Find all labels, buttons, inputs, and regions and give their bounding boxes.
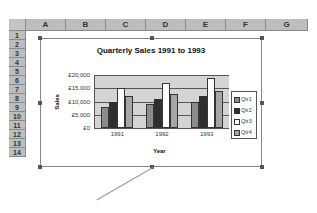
row-header-12[interactable]: 12: [9, 130, 26, 139]
row-header-14[interactable]: 14: [9, 148, 26, 157]
legend-swatch: [234, 130, 240, 136]
legend-label: Qtr3: [241, 118, 252, 124]
resize-handle-tl[interactable]: [38, 36, 42, 40]
row-header-10[interactable]: 10: [9, 112, 26, 121]
bar-qtr1-1992[interactable]: [146, 104, 154, 128]
legend-item-qtr3[interactable]: Qtr3: [234, 118, 252, 125]
bar-qtr3-1993[interactable]: [207, 78, 215, 128]
legend-item-qtr2[interactable]: Qtr2: [234, 107, 252, 114]
row-header-3[interactable]: 3: [9, 49, 26, 58]
column-header-b[interactable]: B: [66, 19, 106, 31]
bar-qtr1-1991[interactable]: [101, 107, 109, 128]
y-tick-label: £20,000: [68, 72, 90, 78]
bar-qtr2-1991[interactable]: [109, 102, 117, 129]
legend-swatch: [234, 108, 240, 114]
chart-legend[interactable]: Qtr1Qtr2Qtr3Qtr4: [231, 91, 257, 139]
bar-qtr4-1993[interactable]: [215, 91, 223, 128]
gridline: [95, 75, 229, 76]
x-tick-label: 1992: [155, 131, 168, 137]
legend-label: Qtr4: [241, 129, 252, 135]
y-tick-label: £5,000: [72, 112, 90, 118]
legend-label: Qtr1: [241, 96, 252, 102]
column-header-f[interactable]: F: [226, 19, 266, 31]
row-header-4[interactable]: 4: [9, 58, 26, 67]
y-axis-label[interactable]: Sales: [54, 94, 60, 110]
resize-handle-ml[interactable]: [38, 101, 42, 105]
y-tick-label: £15,000: [68, 85, 90, 91]
y-tick-label: £10,000: [68, 99, 90, 105]
column-header-d[interactable]: D: [146, 19, 186, 31]
bar-qtr2-1993[interactable]: [199, 96, 207, 128]
bar-qtr3-1991[interactable]: [117, 88, 125, 128]
row-header-2[interactable]: 2: [9, 40, 26, 49]
bar-qtr2-1992[interactable]: [154, 99, 162, 128]
column-header-c[interactable]: C: [106, 19, 146, 31]
x-axis-label[interactable]: Year: [153, 148, 166, 154]
row-header-5[interactable]: 5: [9, 67, 26, 76]
resize-handle-bl[interactable]: [38, 165, 42, 169]
bar-qtr4-1992[interactable]: [170, 94, 178, 128]
legend-item-qtr4[interactable]: Qtr4: [234, 129, 252, 136]
x-tick-label: 1991: [111, 131, 124, 137]
y-tick-label: £0: [83, 125, 90, 131]
pointer-line: [96, 167, 153, 200]
select-all-corner[interactable]: [9, 19, 26, 31]
resize-handle-tc[interactable]: [150, 36, 154, 40]
row-header-1[interactable]: 1: [9, 31, 26, 40]
resize-handle-br[interactable]: [260, 165, 264, 169]
bar-qtr4-1991[interactable]: [125, 96, 133, 128]
row-header-7[interactable]: 7: [9, 85, 26, 94]
chart-title[interactable]: Quarterly Sales 1991 to 1993: [41, 46, 261, 55]
plot-area[interactable]: £0£5,000£10,000£15,000£20,00019911992199…: [94, 75, 229, 129]
row-header-8[interactable]: 8: [9, 94, 26, 103]
row-header-9[interactable]: 9: [9, 103, 26, 112]
legend-label: Qtr2: [241, 107, 252, 113]
resize-handle-tr[interactable]: [260, 36, 264, 40]
column-header-a[interactable]: A: [26, 19, 66, 31]
legend-item-qtr1[interactable]: Qtr1: [234, 96, 252, 103]
resize-handle-mr[interactable]: [260, 101, 264, 105]
legend-swatch: [234, 97, 240, 103]
column-header-e[interactable]: E: [186, 19, 226, 31]
row-header-11[interactable]: 11: [9, 121, 26, 130]
row-header-6[interactable]: 6: [9, 76, 26, 85]
embedded-chart[interactable]: Quarterly Sales 1991 to 1993 Sales £0£5,…: [40, 38, 262, 167]
column-header-g[interactable]: G: [266, 19, 308, 31]
row-header-13[interactable]: 13: [9, 139, 26, 148]
bar-qtr1-1993[interactable]: [191, 102, 199, 129]
legend-swatch: [234, 119, 240, 125]
bar-qtr3-1992[interactable]: [162, 83, 170, 128]
x-tick-label: 1993: [200, 131, 213, 137]
